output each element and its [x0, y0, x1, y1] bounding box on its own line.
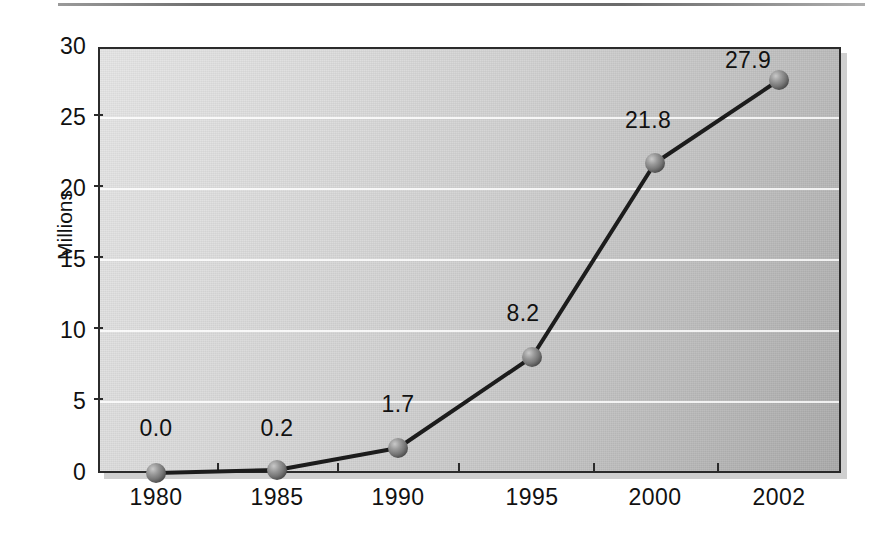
data-label-1990: 1.7: [343, 391, 453, 418]
y-axis-label-30: 30: [26, 33, 86, 60]
y-axis-tick: [94, 185, 103, 187]
gridline: [100, 472, 839, 473]
gridline: [100, 259, 839, 261]
x-axis-tick: [337, 463, 339, 473]
data-label-1980: 0.0: [101, 415, 211, 442]
data-label-1995: 8.2: [468, 300, 578, 327]
x-axis-tick: [217, 463, 219, 473]
plot-area: [98, 47, 841, 473]
x-axis-tick: [717, 463, 719, 473]
chart-figure: 30 25 20 15 10 5 0 Millions 1980 1985 19…: [0, 0, 883, 538]
x-axis-label-2000: 2000: [595, 484, 715, 511]
x-axis-label-1980: 1980: [96, 484, 216, 511]
gridline: [100, 401, 839, 403]
x-axis-label-2002: 2002: [719, 484, 839, 511]
y-axis-tick: [94, 114, 103, 116]
gridline: [100, 117, 839, 119]
x-axis-label-1985: 1985: [217, 484, 337, 511]
y-axis-label-25: 25: [26, 104, 86, 131]
y-axis-label-10: 10: [26, 317, 86, 344]
y-axis-label-15: 15: [26, 246, 86, 273]
y-axis-tick: [94, 327, 103, 329]
gridline: [100, 330, 839, 332]
x-axis-label-1990: 1990: [338, 484, 458, 511]
x-axis-tick: [458, 463, 460, 473]
x-axis-tick: [593, 463, 595, 473]
y-axis-tick: [94, 256, 103, 258]
y-axis-label-5: 5: [26, 388, 86, 415]
top-rule-divider: [58, 3, 865, 6]
y-axis-label-20: 20: [26, 175, 86, 202]
data-label-1985: 0.2: [222, 415, 332, 442]
x-axis-label-1995: 1995: [472, 484, 592, 511]
data-label-2000: 21.8: [593, 107, 703, 134]
y-axis-tick: [94, 398, 103, 400]
y-axis-label-0: 0: [26, 459, 86, 486]
gridline: [100, 188, 839, 190]
data-label-2002: 27.9: [693, 47, 803, 74]
